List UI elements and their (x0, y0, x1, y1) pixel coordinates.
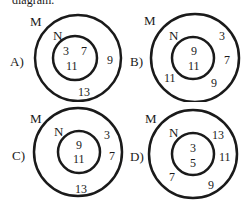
option-d-diagram[interactable]: D) M N 3 5 13 11 7 9 (123, 100, 247, 202)
outer-set-label: M (144, 14, 156, 27)
outer-number: 9 (211, 77, 217, 89)
outer-number: 3 (219, 30, 225, 42)
venn-circles-icon (0, 0, 124, 102)
inner-number: 3 (63, 45, 69, 57)
inner-number: 9 (191, 45, 197, 57)
inner-number: 11 (66, 60, 78, 72)
outer-number: 7 (109, 150, 115, 162)
option-letter: D) (130, 150, 144, 163)
option-letter: B) (130, 55, 143, 68)
outer-set-label: M (145, 112, 157, 125)
outer-number: 7 (169, 171, 175, 183)
outer-number: 11 (164, 72, 176, 84)
inner-number: 3 (190, 142, 196, 154)
outer-number: 9 (107, 54, 113, 66)
outer-number: 7 (224, 54, 230, 66)
outer-number: 13 (75, 183, 87, 195)
outer-number: 13 (212, 129, 224, 141)
outer-set-label: M (30, 15, 42, 28)
inner-number: 11 (73, 153, 85, 165)
inner-number: 9 (76, 139, 82, 151)
outer-number: 13 (78, 86, 90, 98)
option-a-diagram[interactable]: A) M N 3 7 11 9 13 (0, 0, 124, 102)
option-letter: C) (12, 149, 25, 162)
inner-set-label: N (169, 126, 178, 139)
inner-number: 7 (81, 45, 87, 57)
inner-set-label: N (53, 29, 62, 42)
inner-number: 11 (188, 60, 200, 72)
option-c-diagram[interactable]: C) M N 9 11 3 7 13 (0, 100, 124, 202)
option-b-diagram[interactable]: B) M N 9 11 3 7 11 9 (123, 0, 247, 102)
outer-set-label: M (30, 112, 42, 125)
outer-number: 11 (219, 151, 231, 163)
venn-circles-icon (123, 0, 247, 102)
outer-number: 3 (104, 129, 110, 141)
option-letter: A) (10, 55, 24, 68)
outer-number: 9 (208, 179, 214, 191)
inner-number: 5 (190, 157, 196, 169)
inner-set-label: N (169, 29, 178, 42)
inner-set-label: N (54, 125, 63, 138)
